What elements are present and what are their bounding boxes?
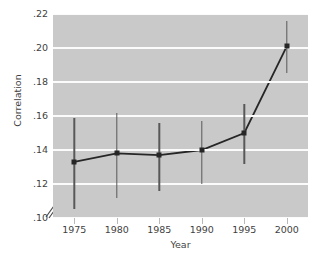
chart-figure: Correlation .10.12.14.16.18.20.22 197519… bbox=[0, 0, 329, 262]
y-axis-tick-label: .12 bbox=[33, 179, 48, 189]
x-axis-tick-label: 1975 bbox=[62, 224, 86, 235]
data-point-marker bbox=[284, 44, 289, 49]
y-axis-tick-label: .18 bbox=[33, 77, 48, 87]
gridline bbox=[53, 14, 308, 15]
gridline bbox=[53, 47, 308, 49]
gridline bbox=[53, 183, 308, 185]
data-point-marker bbox=[199, 148, 204, 153]
y-axis-tick-labels: .10.12.14.16.18.20.22 bbox=[0, 0, 53, 262]
x-axis-tick-label: 1980 bbox=[105, 224, 129, 235]
x-axis-tick-label: 1985 bbox=[147, 224, 171, 235]
y-axis-tick-label: .14 bbox=[33, 145, 48, 155]
series-polyline bbox=[74, 46, 287, 162]
plot-panel bbox=[53, 14, 308, 218]
x-axis-title: Year bbox=[53, 239, 308, 250]
x-axis-tick-label: 1995 bbox=[232, 224, 256, 235]
error-bar bbox=[201, 121, 202, 184]
data-point-marker bbox=[114, 151, 119, 156]
data-point-marker bbox=[72, 159, 77, 164]
x-axis-tick-labels: 197519801985199019952000 bbox=[0, 224, 329, 238]
gridline bbox=[53, 81, 308, 83]
x-axis-tick-label: 1990 bbox=[190, 224, 214, 235]
data-point-marker bbox=[157, 153, 162, 158]
x-axis-tick-label: 2000 bbox=[275, 224, 299, 235]
gridline bbox=[53, 149, 308, 151]
y-axis-tick-label: .20 bbox=[33, 43, 48, 53]
y-axis-tick-label: .16 bbox=[33, 111, 48, 121]
gridline bbox=[53, 115, 308, 117]
data-point-marker bbox=[242, 131, 247, 136]
y-axis-tick-label: .22 bbox=[33, 9, 48, 19]
